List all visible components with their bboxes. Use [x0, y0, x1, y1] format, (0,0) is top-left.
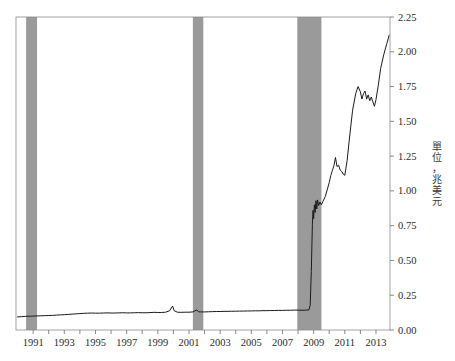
y-tick-label: 0.00: [398, 325, 416, 336]
x-tick-label: 2003: [210, 337, 231, 348]
x-tick-label: 1997: [116, 337, 137, 348]
x-tick-label: 1991: [23, 337, 44, 348]
recession-band: [193, 17, 203, 330]
x-tick-label: 2005: [241, 337, 262, 348]
y-tick-label: 1.00: [398, 185, 416, 196]
y-tick-label: 1.75: [398, 81, 416, 92]
x-tick-label: 2011: [334, 337, 355, 348]
x-tick-label: 2009: [303, 337, 324, 348]
y-tick-label: 0.25: [398, 290, 416, 301]
chart-figure: 0.000.250.500.751.001.251.501.752.002.25…: [0, 0, 455, 361]
axis-title-char: 兆: [432, 174, 442, 185]
y-tick-label: 0.75: [398, 220, 416, 231]
x-tick-label: 2001: [178, 337, 199, 348]
y-tick-label: 0.50: [398, 255, 416, 266]
x-tick-label: 2013: [365, 337, 386, 348]
recession-band: [297, 17, 321, 330]
y-tick-label: 1.50: [398, 116, 416, 127]
axis-title-char: 單: [432, 141, 442, 152]
y-tick-label: 2.25: [398, 12, 416, 23]
x-tick-label: 2007: [272, 337, 293, 348]
line-chart: 0.000.250.500.751.001.251.501.752.002.25…: [0, 0, 455, 361]
axis-title-char: ，: [432, 163, 442, 174]
axis-title-char: 位: [432, 151, 442, 163]
x-tick-label: 1995: [85, 337, 106, 348]
axis-title-char: 元: [432, 196, 442, 207]
x-tick-label: 1999: [147, 337, 168, 348]
recession-band: [26, 17, 37, 330]
x-tick-label: 1993: [54, 337, 75, 348]
y-tick-label: 2.00: [398, 46, 416, 57]
figure-background: [0, 0, 455, 361]
y-axis-title: 單位，兆美元: [432, 141, 442, 207]
y-tick-label: 1.25: [398, 151, 416, 162]
axis-title-char: 美: [432, 184, 442, 196]
